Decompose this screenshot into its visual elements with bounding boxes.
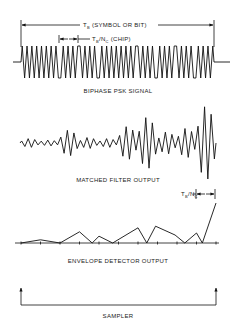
matched-filter-waveform [20,107,216,179]
envelope-caption: ENVELOPE DETECTOR OUTPUT [68,258,168,264]
envelope-detector-plot [15,203,219,245]
bit-period-dimension: TB (SYMBOL OR BIT) [21,20,214,47]
psk-caption: BIPHASE PSK SIGNAL [84,88,153,94]
sampler-diagram [21,288,216,305]
chip-period-dimension: TB/NC (CHIP) [59,35,131,44]
chip-period-label-right: TB/NC [181,191,198,199]
psk-signal-waveform [13,46,230,78]
bit-period-label: TB (SYMBOL OR BIT) [83,22,147,30]
chip-period-label: TB/NC (CHIP) [92,36,131,44]
sampler-caption: SAMPLER [103,313,134,319]
psk-diagram: TB (SYMBOL OR BIT) TB/NC (CHIP) BIPHASE … [0,0,237,329]
envelope-detector-trace [21,203,216,243]
matched-filter-caption: MATCHED FILTER OUTPUT [76,177,160,183]
chip-period-dimension-right: TB/NC [181,189,215,199]
